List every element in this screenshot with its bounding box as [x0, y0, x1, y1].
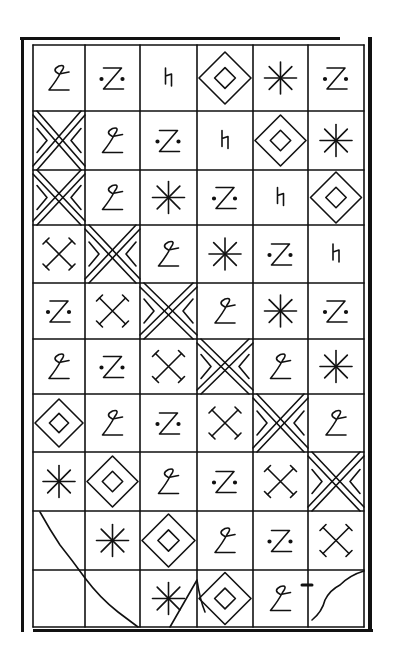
cell-r5-c2-xcross-icon: [97, 295, 129, 327]
cell-r5-c5-star-icon: [265, 295, 297, 327]
cell-r5-c3-xdouble-icon: [140, 283, 197, 339]
cell-r4-c4-star-icon: [209, 238, 241, 270]
cell-r3-c4-zdot-icon: [213, 188, 237, 209]
cell-r6-c6-star-icon: [320, 351, 352, 383]
cell-r7-c2-loop-icon: [103, 411, 123, 435]
cell-r4-c5-zdot-icon: [268, 244, 292, 265]
cell-r2-c3-zdot-icon: [156, 131, 180, 152]
cell-r3-c5-hook-icon: [278, 188, 284, 206]
cell-r9-c3-diamond-icon: [142, 514, 195, 567]
cell-r3-c3-star-icon: [153, 182, 185, 214]
cell-r4-c6-hook-icon: [333, 244, 339, 262]
cell-r4-c1-xcross-icon: [43, 238, 75, 270]
cell-r3-c2-loop-icon: [103, 185, 123, 209]
diagonal-line-center: [170, 580, 205, 627]
cell-r1-c6-zdot-icon: [324, 68, 348, 89]
cell-r10-c4-diamond-icon: [199, 573, 251, 625]
cell-r2-c6-star-icon: [320, 125, 352, 157]
cell-r6-c1-loop-icon: [49, 354, 69, 378]
cell-r4-c2-xdouble-icon: [85, 225, 140, 283]
cell-r7-c6-loop-icon: [326, 411, 346, 435]
cell-r4-c3-loop-icon: [159, 242, 179, 266]
cell-r3-c6-diamond-icon: [311, 172, 362, 223]
cell-r8-c2-diamond-icon: [87, 456, 138, 507]
cell-r8-c1-star-icon: [43, 466, 75, 498]
cell-r6-c3-xcross-icon: [153, 351, 185, 383]
cell-r5-c1-zdot-icon: [47, 301, 71, 322]
cell-r9-c4-loop-icon: [215, 528, 235, 552]
cell-r1-c2-zdot-icon: [100, 68, 124, 89]
cell-r2-c4-hook-icon: [222, 131, 228, 149]
cell-r1-c4-diamond-icon: [199, 52, 251, 104]
symbol-grid: [0, 0, 394, 660]
cell-r9-c6-xcross-icon: [320, 525, 352, 557]
cell-r2-c2-loop-icon: [103, 128, 123, 152]
cell-r8-c4-zdot-icon: [213, 472, 237, 493]
cell-r1-c5-star-icon: [265, 62, 297, 94]
cell-r8-c6-xdouble-icon: [308, 452, 364, 511]
cell-r2-c1-xdouble-icon: [33, 111, 85, 170]
cell-r2-c5-diamond-icon: [255, 115, 306, 166]
cell-r9-c5-zdot-icon: [268, 531, 292, 552]
cell-r10-c5-loop-icon: [271, 586, 291, 610]
cell-r7-c5-xdouble-icon: [253, 394, 308, 452]
cell-r1-c3-hook-icon: [166, 68, 172, 86]
cell-r8-c5-xcross-icon: [265, 466, 297, 498]
right-curve-line: [312, 571, 364, 620]
cell-r1-c1-loop-icon: [49, 66, 69, 90]
cell-r7-c1-diamond-icon: [35, 399, 83, 447]
cell-r7-c4-xcross-icon: [209, 407, 241, 439]
grid-svg: [0, 0, 394, 660]
cell-r7-c3-zdot-icon: [156, 413, 180, 434]
cell-r6-c2-zdot-icon: [100, 357, 124, 378]
cell-r5-c6-zdot-icon: [324, 301, 348, 322]
cell-r9-c2-star-icon: [97, 525, 129, 557]
cell-r5-c4-loop-icon: [215, 299, 235, 323]
cell-r6-c4-xdouble-icon: [197, 339, 253, 394]
cell-r6-c5-loop-icon: [271, 354, 291, 378]
cell-r8-c3-loop-icon: [159, 469, 179, 493]
cell-r3-c1-xdouble-icon: [33, 170, 85, 225]
